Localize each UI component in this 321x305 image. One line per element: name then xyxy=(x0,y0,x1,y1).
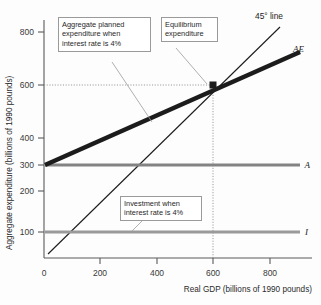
y-ticklabel-800: 800 xyxy=(20,27,34,37)
x-ticklabel-200: 200 xyxy=(93,268,107,278)
callout-equilibrium-expenditure: Equilibrium expenditure xyxy=(161,17,218,42)
a-curve-label: A xyxy=(304,160,311,170)
x-ticklabel-800: 800 xyxy=(263,268,277,278)
equilibrium-point-marker xyxy=(210,82,217,89)
aggregate-expenditure-chart: 800 600 400 300 200 100 0 200 400 600 80… xyxy=(0,0,321,305)
leader-line-investment xyxy=(131,221,142,232)
callout-investment: Investment when interest rate is 4% xyxy=(120,196,202,221)
y-ticklabel-600: 600 xyxy=(20,80,34,90)
leader-line-aggregate-planned-expenditure xyxy=(112,62,152,122)
ae-curve-label: AE xyxy=(292,44,304,54)
y-ticklabel-100: 100 xyxy=(20,227,34,237)
y-ticklabel-300: 300 xyxy=(20,160,34,170)
aggregate-expenditure-line xyxy=(45,52,300,165)
x-axis-title: Real GDP (billions of 1990 pounds) xyxy=(184,285,312,294)
y-ticklabel-400: 400 xyxy=(20,133,34,143)
i-curve-label: I xyxy=(304,227,309,237)
x-ticklabel-0: 0 xyxy=(42,268,47,278)
y-axis-title: Aggregate expenditure (billions of 1990 … xyxy=(5,75,14,250)
forty-five-degree-label: 45° line xyxy=(255,11,283,21)
leader-line-equilibrium xyxy=(176,48,207,84)
chart-canvas: 800 600 400 300 200 100 0 200 400 600 80… xyxy=(0,0,321,305)
x-ticklabel-600: 600 xyxy=(206,268,220,278)
x-ticklabel-400: 400 xyxy=(150,268,164,278)
y-ticklabel-200: 200 xyxy=(20,186,34,196)
callout-aggregate-planned-expenditure: Aggregate planned expenditure when inter… xyxy=(58,17,151,52)
